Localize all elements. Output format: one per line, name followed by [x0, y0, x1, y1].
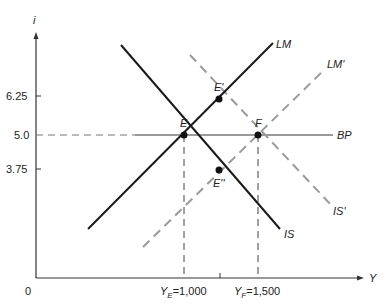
guide-lines [36, 135, 258, 278]
point-f-label: F [255, 117, 263, 129]
y-tick-6.25: 6.25 [6, 90, 27, 102]
origin-label: 0 [25, 285, 31, 297]
x-axis-arrow-icon [357, 276, 364, 281]
y-tick-3.75: 3.75 [6, 163, 27, 175]
point-f [255, 132, 262, 139]
point-e-label: E [180, 117, 188, 129]
lm-prime-label: LM' [327, 58, 345, 70]
lm-prime-curve [143, 69, 325, 247]
lm-label: LM [276, 38, 292, 50]
axes: i Y 0 [25, 14, 377, 297]
y-axis-arrow-icon [34, 32, 39, 39]
point-e-double-prime [216, 167, 223, 174]
bp-label: BP [337, 129, 352, 141]
point-e-double-prime-label: E'' [213, 177, 225, 189]
x-tick-ye: YE=1,000 [160, 285, 207, 300]
is-label: IS [284, 228, 295, 240]
x-axis-label: Y [369, 272, 377, 284]
y-tick-5.0: 5.0 [14, 129, 29, 141]
point-e-prime [216, 96, 223, 103]
x-tick-yf: YF=1,500 [234, 285, 280, 300]
y-axis-label: i [33, 14, 36, 26]
is-prime-label: IS' [333, 205, 346, 217]
point-e [181, 132, 188, 139]
point-e-prime-label: E' [214, 81, 224, 93]
is-lm-bp-diagram: i Y 0 6.25 5.0 3.75 BP LM' IS' LM IS E E… [0, 0, 386, 307]
